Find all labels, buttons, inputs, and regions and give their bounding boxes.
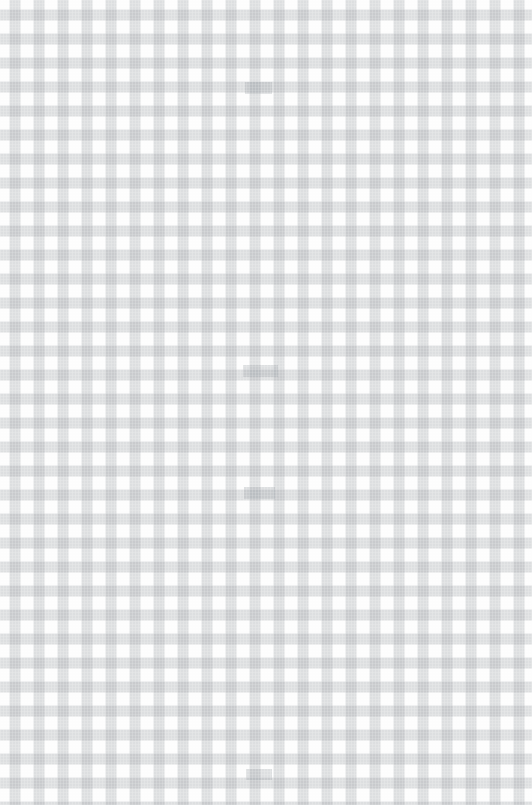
filled-cell-2 bbox=[243, 365, 278, 377]
weave-grain-layer bbox=[0, 0, 532, 805]
filled-cell-4 bbox=[246, 769, 272, 780]
filled-cell-1 bbox=[245, 82, 272, 94]
anomaly-layer bbox=[0, 0, 532, 805]
horizontal-stripes-layer bbox=[0, 0, 532, 805]
soft-focus-haze-layer bbox=[0, 0, 532, 805]
cloth-base-layer bbox=[0, 0, 532, 805]
vertical-stripes-layer bbox=[0, 0, 532, 805]
gingham-texture-image bbox=[0, 0, 532, 805]
filled-cell-3 bbox=[244, 487, 275, 499]
